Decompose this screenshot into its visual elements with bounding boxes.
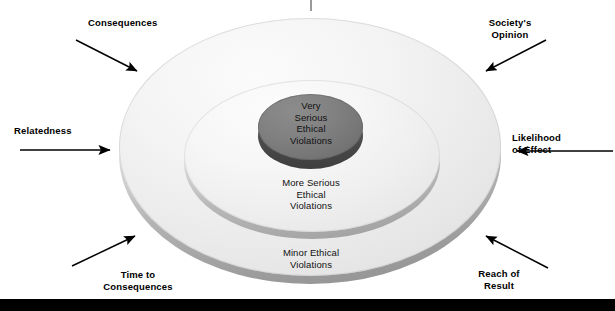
callout-likelihood-of-effect: Likelihood of Effect [512, 132, 612, 155]
arrow-reach-of-result [486, 236, 548, 268]
outer-ring-label: Minor Ethical Violations [248, 247, 374, 270]
callout-relatedness: Relatedness [14, 125, 114, 137]
callout-societys-opinion: Society's Opinion [455, 17, 565, 40]
diagram-canvas: Very Serious Ethical Violations More Ser… [0, 0, 615, 311]
top-tick-mark [310, 0, 312, 11]
callout-reach-of-result: Reach of Result [444, 268, 554, 291]
arrow-time-to-consequences [72, 236, 135, 266]
arrow-consequences [76, 40, 137, 71]
footer-bar [0, 299, 615, 311]
arrow-societys-opinion [486, 40, 546, 71]
callout-time-to-consequences: Time to Consequences [78, 269, 198, 292]
callout-consequences: Consequences [88, 17, 198, 29]
middle-ring-label: More Serious Ethical Violations [249, 177, 373, 212]
inner-disk-label: Very Serious Ethical Violations [263, 100, 359, 146]
